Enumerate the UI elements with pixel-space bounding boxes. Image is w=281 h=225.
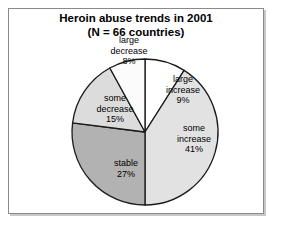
slice-value-large-increase: 9% <box>156 95 210 106</box>
chart-subtitle: (N = 66 countries) <box>8 25 264 39</box>
slice-value-stable: 27% <box>96 169 156 180</box>
pie-chart-figure: Heroin abuse trends in 2001 (N = 66 coun… <box>0 0 281 225</box>
slice-label-some-decrease: some decrease 15% <box>84 93 146 125</box>
slice-label-stable-line1: stable <box>96 158 156 169</box>
slice-label-stable: stable 27% <box>96 158 156 179</box>
slice-label-some-increase-line2: increase <box>163 134 225 145</box>
slice-value-some-decrease: 15% <box>84 114 146 125</box>
slice-label-large-increase-line2: increase <box>156 85 210 96</box>
slice-label-large-increase-line1: large <box>156 74 210 85</box>
slice-value-some-increase: 41% <box>163 144 225 155</box>
slice-label-some-increase-line1: some <box>163 123 225 134</box>
slice-label-some-decrease-line1: some <box>84 93 146 104</box>
slice-label-large-increase: large increase 9% <box>156 74 210 106</box>
slice-label-large-decrease: large decrease 8% <box>94 35 164 67</box>
slice-label-some-decrease-line2: decrease <box>84 104 146 115</box>
chart-title: Heroin abuse trends in 2001 <box>8 11 264 25</box>
chart-title-block: Heroin abuse trends in 2001 (N = 66 coun… <box>8 11 264 39</box>
slice-label-large-decrease-line2: decrease <box>94 46 164 57</box>
slice-label-some-increase: some increase 41% <box>163 123 225 155</box>
slice-value-large-decrease: 8% <box>94 56 164 67</box>
